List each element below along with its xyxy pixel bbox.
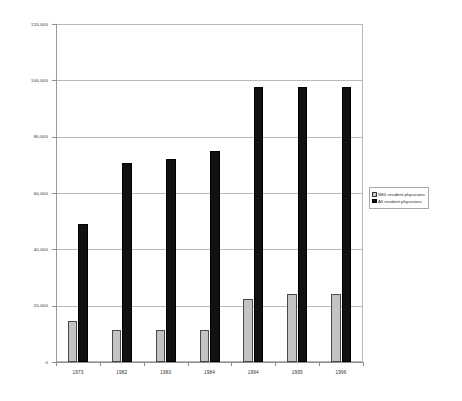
bar-1984-all xyxy=(210,151,220,362)
y-axis-tick-label: 40,000 xyxy=(2,247,48,252)
bar-1994-all xyxy=(254,87,264,362)
y-axis-tick-label: 80,000 xyxy=(2,134,48,139)
x-axis-tick-label: 1973 xyxy=(58,370,98,376)
y-axis-tick-label: 100,000 xyxy=(2,78,48,83)
y-axis-tick-label: 0 xyxy=(2,360,48,365)
x-axis-tick xyxy=(144,362,145,366)
legend-item-label: IMG resident physicians xyxy=(378,192,425,197)
bar-1996-all xyxy=(342,87,352,362)
x-axis-tick xyxy=(188,362,189,366)
black-swatch xyxy=(372,199,377,204)
x-axis-tick xyxy=(363,362,364,366)
x-axis-tick-label: 1994 xyxy=(233,370,273,376)
bar-1973-all xyxy=(78,224,88,362)
x-axis-tick-label: 1996 xyxy=(321,370,361,376)
x-axis-tick-label: 1983 xyxy=(146,370,186,376)
bar-1983-all xyxy=(166,159,176,362)
bar-1973-img xyxy=(68,321,78,362)
chart-legend: IMG resident physiciansAll resident phys… xyxy=(369,187,429,209)
bar-1982-all xyxy=(122,163,132,362)
x-axis-tick xyxy=(275,362,276,366)
x-axis-tick xyxy=(231,362,232,366)
bar-1982-img xyxy=(112,330,122,362)
legend-item: All resident physicians xyxy=(372,198,425,204)
bar-1995-img xyxy=(287,294,297,362)
bar-chart: 020,00040,00060,00080,000100,000120,000 … xyxy=(0,0,462,401)
x-axis-tick xyxy=(56,362,57,366)
x-axis-tick xyxy=(100,362,101,366)
bar-1983-img xyxy=(156,330,166,362)
bar-1995-all xyxy=(298,87,308,362)
legend-item: IMG resident physicians xyxy=(372,192,425,198)
x-axis-tick-label: 1984 xyxy=(190,370,230,376)
bar-group xyxy=(56,24,363,362)
gray-swatch xyxy=(372,192,377,197)
x-axis-line xyxy=(56,362,364,363)
bar-1996-img xyxy=(331,294,341,362)
bar-1984-img xyxy=(200,330,210,362)
y-axis-tick-label: 120,000 xyxy=(2,22,48,27)
bar-1994-img xyxy=(243,299,253,362)
y-axis-tick-label: 20,000 xyxy=(2,303,48,308)
legend-item-label: All resident physicians xyxy=(378,199,422,204)
x-axis-tick-label: 1982 xyxy=(102,370,142,376)
x-axis-tick xyxy=(319,362,320,366)
x-axis-tick-label: 1995 xyxy=(277,370,317,376)
y-axis-tick-label: 60,000 xyxy=(2,191,48,196)
